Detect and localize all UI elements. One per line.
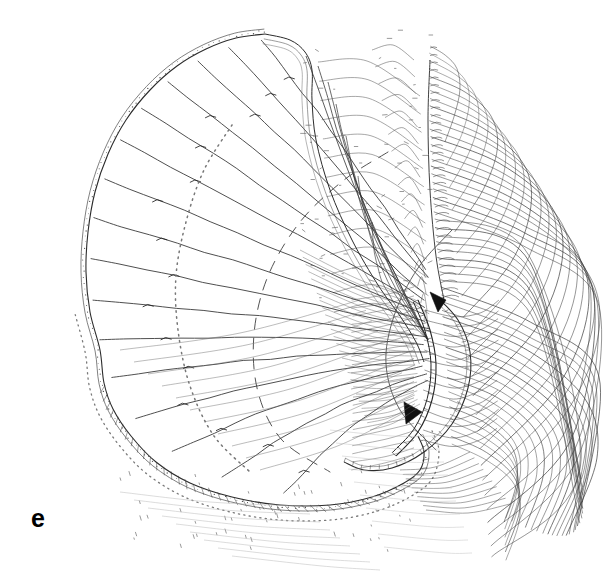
margin-stipple xyxy=(425,451,426,452)
margin-stipple xyxy=(104,157,105,158)
margin-stipple xyxy=(247,502,248,503)
margin-stipple xyxy=(241,34,242,35)
margin-stipple xyxy=(375,499,376,500)
margin-stipple xyxy=(236,36,237,37)
margin-stipple xyxy=(423,446,424,447)
margin-stipple xyxy=(258,30,259,31)
margin-stipple xyxy=(86,305,87,306)
margin-stipple xyxy=(84,283,85,284)
margin-stipple xyxy=(407,483,408,484)
margin-stipple xyxy=(82,254,83,255)
margin-stipple xyxy=(132,106,133,107)
margin-stipple xyxy=(84,248,85,249)
margin-stipple xyxy=(115,418,116,419)
margin-stipple xyxy=(208,44,209,45)
margin-stipple xyxy=(236,500,237,501)
margin-stipple xyxy=(96,179,97,180)
margin-stipple xyxy=(98,363,99,364)
margin-stipple xyxy=(100,373,101,374)
margin-stipple xyxy=(103,391,104,392)
margin-stipple xyxy=(144,93,145,94)
margin-stipple xyxy=(324,508,325,509)
margin-stipple xyxy=(152,461,153,462)
margin-stipple xyxy=(127,438,128,439)
margin-stipple xyxy=(317,507,318,508)
margin-stipple xyxy=(97,345,98,346)
margin-stipple xyxy=(87,298,88,299)
margin-stipple xyxy=(187,485,188,486)
margin-stipple xyxy=(92,328,93,329)
margin-stipple xyxy=(305,507,306,508)
margin-stipple xyxy=(391,491,392,492)
margin-stipple xyxy=(83,270,84,271)
margin-stipple xyxy=(85,241,86,242)
margin-stipple xyxy=(358,501,359,502)
margin-stipple xyxy=(425,457,426,458)
margin-stipple xyxy=(183,60,184,61)
margin-stipple xyxy=(110,141,111,142)
margin-stipple xyxy=(197,489,198,490)
margin-stipple xyxy=(119,126,120,127)
margin-stipple xyxy=(420,434,421,435)
margin-stipple xyxy=(176,478,177,479)
margin-stipple xyxy=(159,77,160,78)
margin-stipple xyxy=(125,431,126,432)
margin-stipple xyxy=(82,259,83,260)
margin-stipple xyxy=(230,498,231,499)
margin-stipple xyxy=(136,445,137,446)
margin-stipple xyxy=(87,312,88,313)
margin-stipple xyxy=(89,201,90,202)
margin-stipple xyxy=(248,33,249,34)
margin-stipple xyxy=(97,356,98,357)
margin-stipple xyxy=(169,69,170,70)
margin-stipple xyxy=(88,213,89,214)
margin-stipple xyxy=(85,235,86,236)
margin-stipple xyxy=(203,488,204,489)
margin-stipple xyxy=(93,190,94,191)
margin-stipple xyxy=(177,61,178,62)
margin-stipple xyxy=(119,422,120,423)
margin-stipple xyxy=(151,85,152,86)
margin-stipple xyxy=(242,501,243,502)
margin-stipple xyxy=(97,349,98,350)
margin-stipple xyxy=(106,152,107,153)
margin-stipple xyxy=(229,36,230,37)
margin-stipple xyxy=(118,132,119,133)
margin-stipple xyxy=(367,499,368,500)
margin-stipple xyxy=(108,401,109,402)
margin-stipple xyxy=(148,456,149,457)
margin-stipple xyxy=(100,162,101,163)
margin-stipple xyxy=(85,294,86,295)
margin-stipple xyxy=(108,408,109,409)
margin-stipple xyxy=(95,184,96,185)
margin-stipple xyxy=(93,333,94,334)
margin-stipple xyxy=(288,507,289,508)
margin-stipple xyxy=(421,472,422,473)
margin-stipple xyxy=(214,494,215,495)
margin-stipple xyxy=(181,482,182,483)
margin-stipple xyxy=(335,506,336,507)
margin-stipple xyxy=(92,196,93,197)
margin-stipple xyxy=(213,42,214,43)
margin-stipple xyxy=(161,468,162,469)
margin-stipple xyxy=(413,477,414,478)
margin-stipple xyxy=(95,339,96,340)
margin-stipple xyxy=(87,224,88,225)
margin-stipple xyxy=(139,97,140,98)
margin-stipple xyxy=(340,505,341,506)
margin-stipple xyxy=(298,507,299,508)
margin-stipple xyxy=(208,491,209,492)
panel-label: e xyxy=(31,506,45,531)
margin-stipple xyxy=(108,146,109,147)
margin-stipple xyxy=(253,33,254,34)
margin-stipple xyxy=(351,502,352,503)
margin-stipple xyxy=(384,493,385,494)
margin-stipple xyxy=(225,39,226,40)
margin-stipple xyxy=(99,168,100,169)
margin-stipple xyxy=(192,486,193,487)
margin-stipple xyxy=(165,73,166,74)
margin-stipple xyxy=(282,507,283,508)
margin-stipple xyxy=(125,116,126,117)
margin-stipple xyxy=(88,317,89,318)
margin-stipple xyxy=(140,449,141,450)
